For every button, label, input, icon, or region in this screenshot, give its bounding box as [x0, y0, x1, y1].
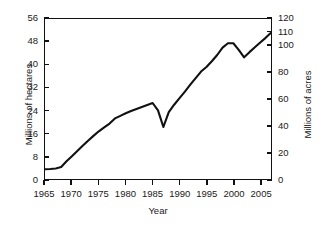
y-tick-left [44, 110, 49, 111]
y-tick-label-right: 110 [278, 27, 293, 37]
plot-area [44, 18, 272, 180]
x-tick [233, 180, 234, 185]
y-tick-label-right: 100 [278, 40, 294, 50]
x-tick [43, 180, 44, 185]
y-tick-label-left: 40 [27, 59, 38, 69]
x-tick-label: 1965 [33, 189, 54, 199]
y-tick-label-right: 80 [278, 67, 289, 77]
x-tick-label: 1985 [142, 189, 163, 199]
x-axis-label: Year [44, 205, 272, 216]
x-tick-label: 1980 [115, 189, 136, 199]
y-tick-label-right: 40 [278, 121, 289, 131]
x-tick [260, 180, 261, 185]
x-tick [152, 180, 153, 185]
y-axis-label-right: Millions of acres [302, 30, 313, 180]
x-tick-label: 2005 [251, 189, 272, 199]
x-tick-label: 1995 [196, 189, 217, 199]
y-tick-label-left: 8 [33, 152, 38, 162]
y-tick-left [44, 133, 49, 134]
x-tick-label: 1975 [88, 189, 109, 199]
y-tick-label-right: 20 [278, 148, 289, 158]
x-tick [70, 180, 71, 185]
y-tick-left [44, 40, 49, 41]
y-tick-left [44, 64, 49, 65]
y-tick-label-left: 32 [27, 82, 38, 92]
y-tick-right [267, 98, 272, 99]
y-tick-left [44, 179, 49, 180]
y-tick-right [267, 125, 272, 126]
data-series-line [45, 19, 271, 179]
y-tick-label-right: 60 [278, 94, 289, 104]
y-tick-label-left: 24 [27, 106, 38, 116]
y-tick-left [44, 156, 49, 157]
x-tick-label: 1990 [169, 189, 190, 199]
y-tick-right [267, 44, 272, 45]
y-tick-right [267, 17, 272, 18]
y-tick-right [267, 152, 272, 153]
y-tick-label-left: 48 [27, 36, 38, 46]
x-tick [125, 180, 126, 185]
y-tick-left [44, 17, 49, 18]
x-tick-label: 1970 [61, 189, 82, 199]
y-tick-left [44, 87, 49, 88]
y-tick-label-right: 120 [278, 13, 294, 23]
x-tick [179, 180, 180, 185]
chart-container: Millions of hectares Millions of acres Y… [0, 0, 328, 235]
x-tick [206, 180, 207, 185]
y-tick-right [267, 71, 272, 72]
y-tick-right [267, 31, 272, 32]
y-tick-label-left: 0 [33, 175, 38, 185]
x-tick-label: 2000 [223, 189, 244, 199]
y-tick-label-left: 56 [27, 13, 38, 23]
y-tick-label-right: 0 [278, 175, 283, 185]
x-tick [98, 180, 99, 185]
y-tick-label-left: 16 [27, 129, 38, 139]
y-tick-right [267, 179, 272, 180]
